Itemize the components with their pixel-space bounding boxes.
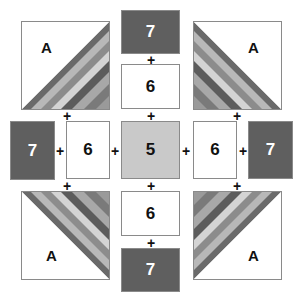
striped-triangle-icon xyxy=(193,21,282,110)
plus-sign: + xyxy=(62,181,72,191)
piece-6-bottom: 6 xyxy=(121,191,180,236)
corner-unit-top-right: A xyxy=(193,21,282,110)
striped-triangle-icon xyxy=(21,191,110,280)
plus-sign: + xyxy=(238,146,248,156)
piece-7-bottom: 7 xyxy=(121,248,180,292)
plus-sign: + xyxy=(232,181,242,191)
plus-sign: + xyxy=(146,238,156,248)
corner-unit-bottom-right: A xyxy=(193,191,282,280)
plus-sign: + xyxy=(232,111,242,121)
plus-sign: + xyxy=(110,146,120,156)
plus-sign: + xyxy=(146,111,156,121)
striped-triangle-icon xyxy=(21,21,110,110)
piece-6-right: 6 xyxy=(193,121,237,179)
corner-label: A xyxy=(248,247,259,264)
piece-5-center: 5 xyxy=(121,121,180,179)
corner-label: A xyxy=(248,39,259,56)
plus-sign: + xyxy=(146,55,156,65)
piece-6-top: 6 xyxy=(121,64,180,109)
piece-7-right: 7 xyxy=(248,121,293,179)
corner-label: A xyxy=(41,39,52,56)
piece-7-left: 7 xyxy=(10,121,55,180)
plus-sign: + xyxy=(62,111,72,121)
corner-unit-top-left: A xyxy=(21,21,110,110)
piece-7-top: 7 xyxy=(121,10,180,54)
corner-label: A xyxy=(46,247,57,264)
corner-unit-bottom-left: A xyxy=(21,191,110,280)
plus-sign: + xyxy=(181,146,191,156)
plus-sign: + xyxy=(146,181,156,191)
striped-triangle-icon xyxy=(193,191,282,280)
piece-6-left: 6 xyxy=(66,121,110,179)
plus-sign: + xyxy=(55,146,65,156)
